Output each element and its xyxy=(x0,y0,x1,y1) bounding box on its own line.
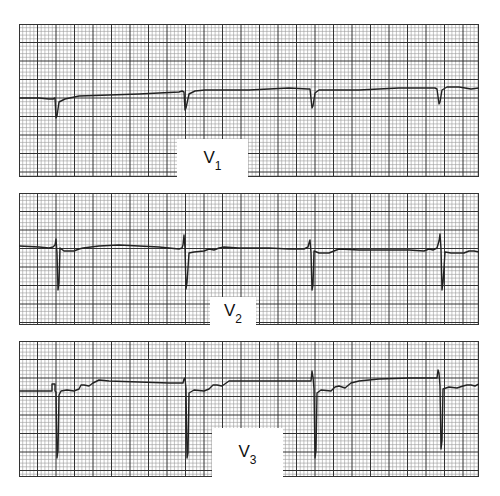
lead-label-box-v2: V2 xyxy=(210,297,256,327)
lead-label-box-v3: V3 xyxy=(212,428,283,478)
lead-label-box-v1: V1 xyxy=(177,139,248,179)
lead-label-v3: V3 xyxy=(212,442,283,464)
lead-label-v2: V2 xyxy=(210,301,256,323)
ecg-grid-and-trace xyxy=(19,24,479,177)
ecg-strip-v1 xyxy=(19,24,479,177)
lead-label-v1: V1 xyxy=(177,148,248,170)
